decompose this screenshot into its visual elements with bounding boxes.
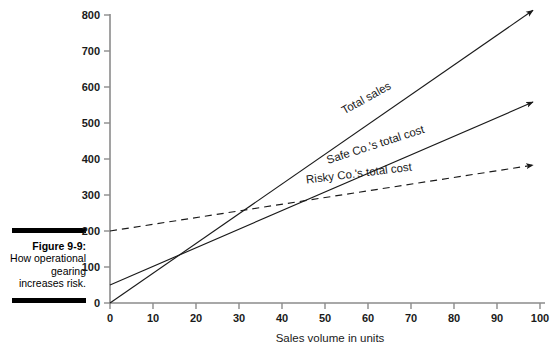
y-tick-label: 400 xyxy=(82,153,100,165)
y-tick-label: 0 xyxy=(94,297,100,309)
x-tick-label: 10 xyxy=(147,312,159,324)
series-group xyxy=(110,10,533,303)
x-tick-label: 80 xyxy=(448,312,460,324)
series-line-safe-co-s-total-cost xyxy=(110,102,533,285)
x-tick-label: 20 xyxy=(190,312,202,324)
x-tick-label: 90 xyxy=(491,312,503,324)
y-tick-group: 0100200300400500600700800 xyxy=(82,9,110,309)
line-chart: 0100200300400500600700800 01020304050607… xyxy=(0,0,558,353)
x-tick-label: 30 xyxy=(233,312,245,324)
x-tick-label: 50 xyxy=(319,312,331,324)
series-label-total-sales: Total sales xyxy=(339,79,393,116)
x-axis-title: Sales volume in units xyxy=(276,332,385,344)
figure-container: Figure 9-9: How operational gearing incr… xyxy=(0,0,558,353)
chart-plot-area: 0100200300400500600700800 01020304050607… xyxy=(0,0,558,353)
series-label-risky-co-s-total-cost: Risky Co.'s total cost xyxy=(305,160,413,185)
x-tick-label: 60 xyxy=(362,312,374,324)
y-tick-label: 100 xyxy=(82,261,100,273)
series-line-total-sales xyxy=(110,10,533,303)
y-tick-label: 700 xyxy=(82,45,100,57)
y-tick-label: 500 xyxy=(82,117,100,129)
series-label-group: Total salesSafe Co.'s total costRisky Co… xyxy=(305,79,426,185)
x-tick-label: 70 xyxy=(405,312,417,324)
x-tick-label: 0 xyxy=(107,312,113,324)
y-tick-label: 300 xyxy=(82,189,100,201)
y-tick-label: 600 xyxy=(82,81,100,93)
x-tick-label: 40 xyxy=(276,312,288,324)
y-tick-label: 200 xyxy=(82,225,100,237)
x-tick-group: 0102030405060708090100 xyxy=(107,303,549,324)
y-tick-label: 800 xyxy=(82,9,100,21)
x-tick-label: 100 xyxy=(531,312,549,324)
